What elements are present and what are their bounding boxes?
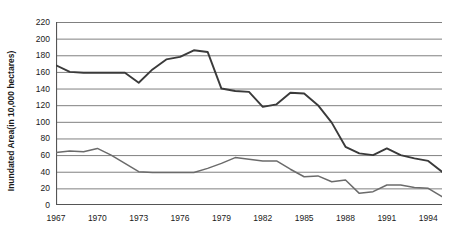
x-axis-tick-label: 1973 [129, 213, 148, 223]
x-axis-tick-label: 1994 [419, 213, 438, 223]
x-axis-tick-labels: 1967197019731976197919821985198819911994 [0, 0, 450, 242]
x-axis-tick-label: 1970 [88, 213, 107, 223]
x-axis-tick-label: 1982 [253, 213, 272, 223]
chart-figure: Inundated Area(in 10,000 hectares) 02040… [0, 0, 450, 242]
x-axis-tick-label: 1985 [295, 213, 314, 223]
x-axis-tick-label: 1991 [377, 213, 396, 223]
x-axis-tick-label: 1967 [47, 213, 66, 223]
x-axis-tick-label: 1988 [336, 213, 355, 223]
x-axis-tick-label: 1979 [212, 213, 231, 223]
x-axis-tick-label: 1976 [171, 213, 190, 223]
